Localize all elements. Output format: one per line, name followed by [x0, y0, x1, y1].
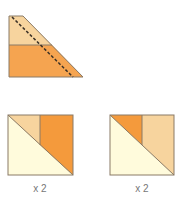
block-right-quantity-label: x 2: [135, 183, 149, 194]
top-strip-unit: [9, 16, 83, 77]
block-left: x 2: [8, 115, 73, 194]
block-right: x 2: [110, 115, 174, 194]
top-strip-upper: [9, 16, 52, 45]
quilt-diagram: x 2 x 2: [0, 0, 181, 206]
block-left-quantity-label: x 2: [33, 183, 47, 194]
